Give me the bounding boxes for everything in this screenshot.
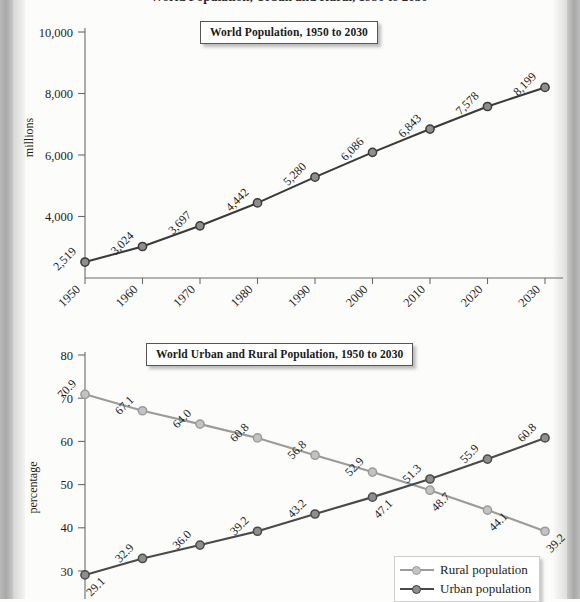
- chart2-ytick: 30: [61, 565, 74, 579]
- chart2-data-point-rural[interactable]: [253, 434, 261, 442]
- chart2-point-label: 60.8: [227, 420, 252, 445]
- chart2-data-point-urban[interactable]: [253, 527, 261, 535]
- chart1-point-label: 6,843: [395, 111, 424, 140]
- chart1-xtick: 1950: [56, 282, 84, 310]
- chart2-data-point-rural[interactable]: [196, 420, 204, 428]
- chart2-data-point-rural[interactable]: [368, 468, 376, 476]
- chart1-point-label: 2,519: [50, 244, 79, 273]
- chart2-legend: Rural population Urban population: [394, 556, 540, 602]
- chart1-point-label: 7,578: [453, 89, 482, 118]
- chart1-point-label: 5,280: [280, 159, 309, 188]
- chart1-data-point[interactable]: [253, 199, 261, 207]
- chart2-ytick: 40: [61, 521, 74, 535]
- chart1-xtick: 2020: [458, 282, 486, 310]
- chart2-data-point-urban[interactable]: [426, 475, 434, 483]
- chart1-ytick: 10,000: [39, 26, 73, 40]
- chart2-data-point-rural[interactable]: [541, 527, 549, 535]
- chart1-xtick: 2030: [516, 282, 544, 310]
- chart2-y-axis-label: percentage: [26, 451, 41, 525]
- chart2-point-label: 52.9: [342, 454, 367, 479]
- legend-marker-rural-icon: [400, 564, 434, 576]
- chart1-data-point[interactable]: [311, 173, 319, 181]
- chart1-data-point[interactable]: [196, 222, 204, 230]
- chart2-ytick: 50: [61, 478, 74, 492]
- chart2-data-point-urban[interactable]: [368, 493, 376, 501]
- chart1-y-axis-label: millions: [22, 108, 37, 168]
- chart2-data-point-rural[interactable]: [483, 506, 491, 514]
- chart1-point-label: 4,442: [223, 185, 252, 214]
- chart2-data-point-urban[interactable]: [483, 455, 491, 463]
- chart2-data-point-rural[interactable]: [311, 451, 319, 459]
- chart-world-population-canvas: 4,0006,0008,00010,0001950196019701980199…: [0, 0, 580, 330]
- chart2-data-point-rural[interactable]: [138, 407, 146, 415]
- chart2-title: World Urban and Rural Population, 1950 t…: [146, 343, 413, 366]
- chart2-data-point-rural[interactable]: [81, 390, 89, 398]
- chart1-data-point[interactable]: [541, 83, 549, 91]
- chart-world-population: 4,0006,0008,00010,0001950196019701980199…: [0, 0, 580, 330]
- chart1-point-label: 6,086: [338, 135, 367, 164]
- chart1-data-point[interactable]: [483, 102, 491, 110]
- chart2-point-label: 64.0: [169, 406, 194, 431]
- chart2-point-label: 70.9: [54, 377, 79, 402]
- chart2-data-point-urban[interactable]: [541, 434, 549, 442]
- legend-marker-urban-icon: [400, 583, 434, 595]
- chart1-xtick: 1970: [171, 282, 199, 310]
- legend-item-rural[interactable]: Rural population: [400, 560, 531, 579]
- chart2-point-label: 56.8: [284, 437, 309, 462]
- chart2-data-point-urban[interactable]: [81, 571, 89, 579]
- chart1-data-point[interactable]: [426, 125, 434, 133]
- legend-item-urban[interactable]: Urban population: [400, 579, 531, 598]
- chart2-ytick: 80: [61, 349, 74, 363]
- chart1-ytick: 6,000: [45, 149, 73, 163]
- chart1-data-point[interactable]: [368, 148, 376, 156]
- chart2-data-point-urban[interactable]: [138, 554, 146, 562]
- chart1-ytick: 4,000: [45, 210, 73, 224]
- chart1-data-point[interactable]: [138, 242, 146, 250]
- chart1-point-label: 3,024: [108, 229, 137, 258]
- chart2-data-point-urban[interactable]: [311, 510, 319, 518]
- chart1-data-point[interactable]: [81, 258, 89, 266]
- chart2-ytick: 60: [61, 435, 74, 449]
- chart1-xtick: 2000: [343, 282, 371, 310]
- chart1-title: World Population, 1950 to 2030: [200, 21, 378, 44]
- chart1-xtick: 1960: [113, 282, 141, 310]
- legend-label-urban: Urban population: [440, 581, 531, 597]
- chart1-ytick: 8,000: [45, 87, 73, 101]
- legend-label-rural: Rural population: [440, 562, 528, 578]
- chart2-data-point-urban[interactable]: [196, 541, 204, 549]
- chart1-xtick: 1980: [228, 282, 256, 310]
- chart1-xtick: 1990: [286, 282, 314, 310]
- chart1-xtick: 2010: [401, 282, 429, 310]
- chart2-data-point-rural[interactable]: [426, 486, 434, 494]
- chart2-point-label: 67.1: [112, 393, 137, 418]
